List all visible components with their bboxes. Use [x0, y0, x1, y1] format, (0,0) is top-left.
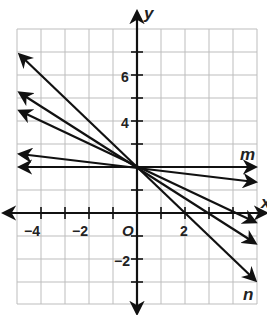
coordinate-graph: 6 4 −2 −4 −2 2 O y x m n	[0, 0, 267, 315]
y-tick-label-4: 4	[121, 115, 129, 131]
x-axis-label: x	[260, 193, 267, 212]
y-tick-label-6: 6	[121, 69, 129, 85]
y-axis-label: y	[143, 4, 155, 23]
x-tick-label-neg4: −4	[24, 223, 40, 239]
axes	[4, 12, 266, 313]
origin-label: O	[122, 222, 134, 239]
x-tick-label-2: 2	[180, 223, 188, 239]
x-tick-label-neg2: −2	[72, 223, 88, 239]
line-n-label: n	[243, 285, 253, 304]
line-m-label: m	[240, 145, 255, 164]
y-tick-label-neg2: −2	[114, 253, 130, 269]
